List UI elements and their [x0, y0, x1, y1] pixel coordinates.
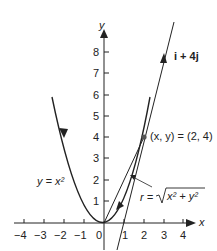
x-tick-label: −2 [54, 230, 67, 241]
x-tick-label: 0 [96, 230, 102, 241]
point-label: (x, y) = (2, 4) [150, 131, 213, 142]
x-axis-arrow-icon [186, 219, 196, 227]
x-tick-label: 4 [180, 230, 186, 241]
parabola-curve [52, 97, 150, 223]
x-tick-label: −3 [34, 230, 47, 241]
x-tick-label: −1 [74, 230, 87, 241]
y-tick-label: 6 [93, 90, 99, 101]
diagram-graphics [0, 0, 217, 251]
curve-direction-arrow-icon-2 [116, 201, 124, 210]
x-axis-label: x [199, 217, 205, 228]
y-tick-label: 5 [93, 111, 99, 122]
point-2-4 [141, 134, 146, 139]
x-tick-label: 2 [141, 230, 147, 241]
y-tick-label: 1 [93, 196, 99, 207]
r-label-prefix: r = [140, 192, 153, 203]
y-axis-label: y [99, 20, 105, 31]
y-ticks [104, 52, 109, 201]
r-label-pointer [133, 177, 152, 187]
tangent-vector-label: i + 4j [174, 51, 199, 62]
y-tick-label: 4 [93, 132, 99, 143]
y-tick-label: 8 [93, 47, 99, 58]
parabola-tangent-diagram: y x −4 −3 −2 −1 0 1 2 3 4 1 2 3 4 5 6 7 … [0, 0, 217, 251]
y-tick-label: 2 [93, 175, 99, 186]
x-tick-label: 1 [122, 230, 128, 241]
x-tick-label: −4 [14, 230, 27, 241]
r-label-radicand: x² + y² [167, 191, 198, 202]
y-tick-label: 7 [93, 68, 99, 79]
curve-label: y = x² [37, 176, 64, 187]
y-tick-label: 3 [93, 153, 99, 164]
x-tick-label: 3 [161, 230, 167, 241]
